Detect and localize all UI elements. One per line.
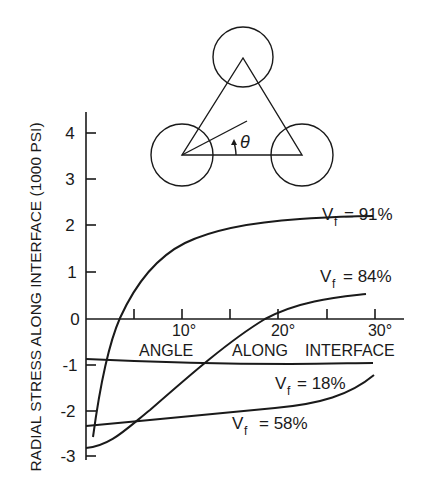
svg-text:2: 2 (65, 216, 74, 235)
x-tick-labels: 10° 20° 30° (172, 322, 392, 339)
fiber-inset-diagram (151, 27, 333, 186)
svg-text:= 91%: = 91% (344, 205, 393, 224)
y-axis-label: RADIAL STRESS ALONG INTERFACE (1000 PSI) (27, 122, 44, 471)
curve-vf-18 (86, 359, 373, 364)
svg-text:V: V (232, 414, 244, 433)
curve-vf-91 (93, 216, 373, 437)
svg-text:30°: 30° (368, 322, 392, 339)
svg-text:f: f (287, 384, 291, 398)
y-ticks (86, 133, 96, 456)
svg-text:= 84%: = 84% (343, 267, 392, 286)
label-vf-58: V f = 58% (232, 414, 308, 438)
svg-text:-1: -1 (62, 356, 77, 375)
theta-label: θ (240, 132, 250, 152)
svg-text:= 18%: = 18% (297, 374, 346, 393)
arrow-head (231, 139, 237, 145)
svg-text:1: 1 (67, 263, 76, 282)
svg-text:10°: 10° (172, 322, 196, 339)
svg-text:= 58%: = 58% (259, 414, 308, 433)
svg-text:0: 0 (70, 310, 79, 329)
svg-text:V: V (320, 267, 332, 286)
radial-stress-chart: 4 3 2 1 0 -1 -2 -3 10° 20° 30° RADIAL ST… (0, 0, 427, 484)
svg-text:4: 4 (65, 124, 74, 143)
x-axis-label-interface: INTERFACE (305, 342, 395, 359)
y-tick-labels: 4 3 2 1 0 -1 -2 -3 (60, 124, 79, 466)
x-ticks (134, 309, 375, 319)
label-vf-18: V f = 18% (275, 374, 346, 398)
svg-text:3: 3 (65, 170, 74, 189)
svg-text:-2: -2 (60, 402, 75, 421)
svg-text:f: f (332, 277, 336, 291)
label-vf-91: V f = 91% (322, 205, 393, 229)
svg-text:20°: 20° (271, 322, 295, 339)
x-axis-label-along: ALONG (232, 342, 288, 359)
svg-text:V: V (275, 374, 287, 393)
svg-text:f: f (244, 424, 248, 438)
x-axis-label-angle: ANGLE (139, 342, 193, 359)
svg-text:-3: -3 (60, 447, 75, 466)
svg-text:V: V (322, 205, 334, 224)
curve-vf-84 (86, 294, 366, 448)
label-vf-84: V f = 84% (320, 267, 392, 291)
